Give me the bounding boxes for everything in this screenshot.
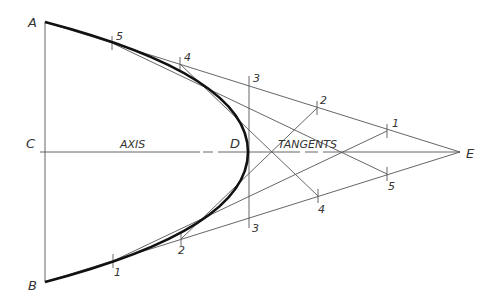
lower-label-5: 5 [388,180,395,193]
label-B: B [28,278,37,293]
lower-label-2: 2 [178,244,185,257]
lower-label-1: 1 [114,266,121,279]
lower-label-3: 3 [252,222,259,235]
parabola-diagram: A B C D E AXIS TANGENTS 5 4 3 2 1 1 2 3 … [0,0,501,303]
upper-label-4: 4 [184,51,191,64]
tangent-1-1 [113,131,387,261]
upper-label-2: 2 [320,94,327,107]
upper-label-3: 3 [253,72,260,85]
label-C: C [26,136,36,151]
axis-label: AXIS [119,138,145,151]
label-E: E [466,146,475,161]
label-D: D [230,136,240,151]
lower-label-4: 4 [318,203,325,216]
upper-label-1: 1 [392,117,399,130]
tangent-5-5 [112,43,387,174]
tangents-label: TANGENTS [278,138,337,151]
upper-label-5: 5 [116,30,123,43]
label-A: A [27,15,37,30]
